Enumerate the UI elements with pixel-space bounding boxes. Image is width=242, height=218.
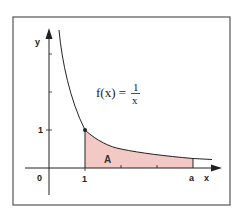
x-tick-label-1: 1 [82, 174, 87, 184]
y-axis-label: y [35, 37, 40, 47]
frame [13, 17, 230, 205]
area-label: A [104, 154, 111, 165]
origin-label: 0 [37, 173, 42, 183]
point-1-1 [83, 128, 87, 132]
x-axis-label: x [204, 173, 209, 183]
y-tick-label-1: 1 [38, 125, 43, 135]
formula-numerator: 1 [133, 81, 139, 93]
formula-denominator: x [132, 94, 138, 106]
hyperbola-area-diagram: y 0 1 1 a x f(x) = 1 x A [0, 0, 242, 218]
formula-lhs: f(x) = [96, 85, 126, 100]
